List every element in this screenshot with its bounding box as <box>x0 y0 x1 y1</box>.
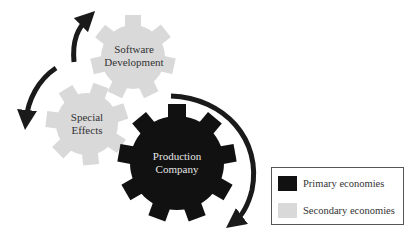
legend-item-primary: Primary economies <box>278 176 384 191</box>
arrow-to-software-development-icon <box>74 18 88 62</box>
secondary-swatch-icon <box>278 203 297 218</box>
software-development-label: Software Development <box>98 43 170 69</box>
legend-item-secondary: Secondary economies <box>278 203 395 218</box>
special-effects-label: Special Effects <box>57 111 117 137</box>
legend-label-primary: Primary economies <box>303 178 384 189</box>
primary-swatch-icon <box>278 176 297 191</box>
legend-label-secondary: Secondary economies <box>303 205 395 216</box>
production-company-label: Production Company <box>137 150 217 176</box>
legend: Primary economies Secondary economies <box>271 167 404 225</box>
